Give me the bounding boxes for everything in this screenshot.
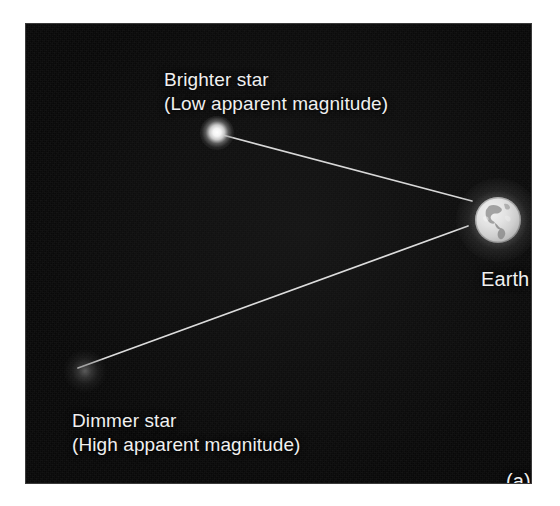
sight-line-brighter-star-to-earth (219, 134, 472, 201)
dimmer-star-label-line2: (High apparent magnitude) (72, 433, 301, 457)
night-sky-panel: Brighter star (Low apparent magnitude) D… (26, 24, 531, 483)
dimmer-star-label: Dimmer star (High apparent magnitude) (72, 409, 301, 457)
dimmer-star-label-line1: Dimmer star (72, 409, 301, 433)
brighter-star-label-line1: Brighter star (164, 68, 388, 92)
sight-line-dimmer-star-to-earth (78, 226, 468, 368)
brighter-star-label-line2: (Low apparent magnitude) (164, 92, 388, 116)
brighter-star-label: Brighter star (Low apparent magnitude) (164, 68, 388, 116)
apparent-magnitude-figure: Brighter star (Low apparent magnitude) D… (0, 0, 560, 506)
earth-label: Earth (481, 267, 529, 291)
panel-tag: (a) (506, 469, 531, 483)
